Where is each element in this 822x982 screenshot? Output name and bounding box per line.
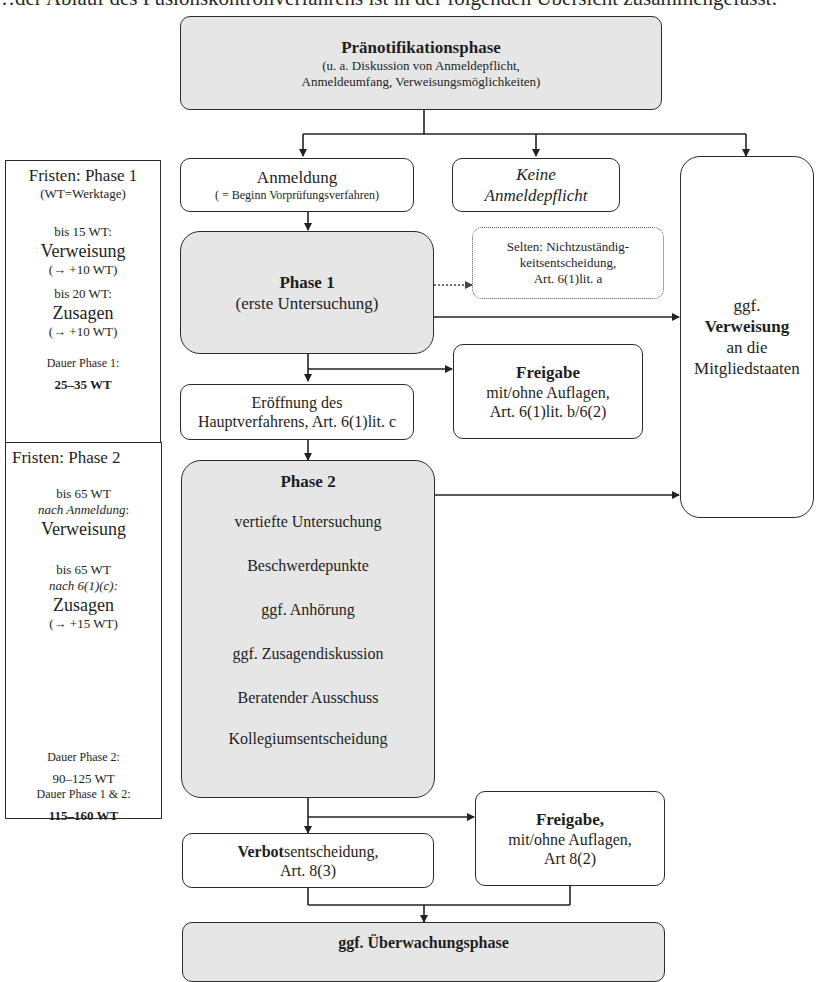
deadlines-phase1-duration-value: 25–35 WT xyxy=(6,377,160,393)
phase1-subtitle: (erste Untersuchung) xyxy=(235,293,378,314)
no-notification-line2: Anmeldepflicht xyxy=(485,185,588,206)
referral-line1: ggf. xyxy=(734,295,761,316)
deadlines-phase2-title: Fristen: Phase 2 xyxy=(6,447,161,468)
clearance1-title: Freigabe xyxy=(516,362,580,383)
prohibition-line2: Art. 8(3) xyxy=(280,861,336,880)
non-competence-box: Selten: Nichtzuständig- keitsentscheidun… xyxy=(472,227,664,299)
notification-box: Anmeldung ( = Beginn Vorprüfungsverfahre… xyxy=(180,158,414,212)
pre-notification-line2: Anmeldeumfang, Verweisungsmöglichkeiten) xyxy=(302,74,541,90)
phase1-box: Phase 1 (erste Untersuchung) xyxy=(180,231,434,354)
deadlines-phase2-commit-ref: nach 6(1)(c): xyxy=(6,578,161,594)
phase2-title: Phase 2 xyxy=(280,471,335,492)
opening-main-proceedings-box: Eröffnung des Hauptverfahrens, Art. 6(1)… xyxy=(180,384,414,440)
clearance1-line1: mit/ohne Auflagen, xyxy=(486,383,610,402)
prohibition-rest: sentscheidung, xyxy=(284,843,379,860)
deadlines-phase2-duration-value: 90–125 WT xyxy=(6,771,161,787)
referral-line3: an die xyxy=(726,337,767,358)
referral-box: ggf. Verweisung an die Mitgliedstaaten xyxy=(680,156,814,518)
deadlines-phase2-commit-label: Zusagen xyxy=(6,594,161,616)
phase2-item: ggf. Anhörung xyxy=(261,600,354,619)
opening-line2: Hauptverfahrens, Art. 6(1)lit. c xyxy=(198,412,396,431)
deadlines-phase1-legend: (WT=Werktage) xyxy=(6,186,160,202)
opening-line1: Eröffnung des xyxy=(252,393,343,412)
deadlines-total-label: Dauer Phase 1 & 2: xyxy=(6,787,161,802)
referral-line4: Mitgliedstaaten xyxy=(694,358,800,379)
notification-subtitle: ( = Beginn Vorprüfungsverfahren) xyxy=(215,188,379,203)
pre-notification-line1: (u. a. Diskussion von Anmeldepflicht, xyxy=(322,58,520,74)
deadlines-phase2-referral-label: Verweisung xyxy=(6,518,161,540)
deadlines-phase1-commit-ext: (→ +10 WT) xyxy=(6,324,160,340)
deadlines-phase1-commit-label: Zusagen xyxy=(6,302,160,324)
deadlines-phase2-commit-when: bis 65 WT xyxy=(6,562,161,578)
monitoring-phase-box: ggf. Überwachungsphase xyxy=(182,922,665,982)
phase2-item: ggf. Zusagendiskussion xyxy=(232,644,383,663)
phase2-item: vertiefte Untersuchung xyxy=(234,512,381,531)
clearance-phase2-box: Freigabe, mit/ohne Auflagen, Art 8(2) xyxy=(475,791,665,886)
deadlines-phase2-referral-ref: nach Anmeldung xyxy=(38,502,126,517)
phase1-title: Phase 1 xyxy=(279,272,334,293)
deadlines-phase2-referral-when: bis 65 WT xyxy=(6,486,161,502)
phase2-box: Phase 2 vertiefte Untersuchung Beschwerd… xyxy=(181,460,435,798)
deadlines-phase2-panel: Fristen: Phase 2 bis 65 WT nach Anmeldun… xyxy=(5,442,162,819)
pre-notification-title: Pränotifikationsphase xyxy=(341,37,501,58)
notification-title: Anmeldung xyxy=(257,167,337,188)
phase2-item: Kollegiumsentscheidung xyxy=(228,729,387,748)
deadlines-phase1-title: Fristen: Phase 1 xyxy=(6,165,160,186)
clearance2-line1: mit/ohne Auflagen, xyxy=(508,830,632,849)
deadlines-phase1-duration-label: Dauer Phase 1: xyxy=(6,356,160,371)
deadlines-phase2-referral-colon: : xyxy=(125,502,129,517)
non-competence-line1: Selten: Nichtzuständig- xyxy=(507,239,629,255)
pre-notification-phase-box: Pränotifikationsphase (u. a. Diskussion … xyxy=(180,16,662,110)
prohibition-bold: Verbot xyxy=(237,843,284,860)
deadlines-phase1-panel: Fristen: Phase 1 (WT=Werktage) bis 15 WT… xyxy=(5,160,161,444)
deadlines-phase1-referral-label: Verweisung xyxy=(6,240,160,262)
phase2-item: Beschwerdepunkte xyxy=(247,556,369,575)
clearance2-line2: Art 8(2) xyxy=(544,849,596,868)
clearance-phase1-box: Freigabe mit/ohne Auflagen, Art. 6(1)lit… xyxy=(453,344,643,439)
deadlines-phase1-referral-when: bis 15 WT: xyxy=(6,224,160,240)
deadlines-total-value: 115–160 WT xyxy=(6,808,161,824)
monitoring-title: ggf. Überwachungsphase xyxy=(338,933,509,952)
phase2-item: Beratender Ausschuss xyxy=(238,688,379,707)
non-competence-line3: Art. 6(1)lit. a xyxy=(534,271,603,287)
no-notification-line1: Keine xyxy=(516,164,556,185)
clearance1-line2: Art. 6(1)lit. b/6(2) xyxy=(490,402,606,421)
no-notification-box: Keine Anmeldepflicht xyxy=(452,158,620,212)
clearance2-title: Freigabe, xyxy=(536,809,604,830)
deadlines-phase2-commit-ext: (→ +15 WT) xyxy=(6,616,161,632)
prohibition-decision-box: Verbotsentscheidung, Art. 8(3) xyxy=(182,833,434,888)
non-competence-line2: keitsentscheidung, xyxy=(520,255,616,271)
referral-line2: Verweisung xyxy=(705,316,789,337)
deadlines-phase1-commit-when: bis 20 WT: xyxy=(6,286,160,302)
deadlines-phase2-duration-label: Dauer Phase 2: xyxy=(6,750,161,765)
intro-text: …der Ablauf des Fusionskontrollverfahren… xyxy=(0,0,822,10)
deadlines-phase1-referral-ext: (→ +10 WT) xyxy=(6,262,160,278)
